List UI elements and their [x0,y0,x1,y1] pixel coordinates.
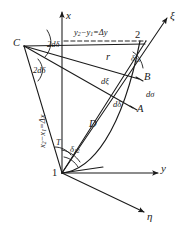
angle-label-2ddelta-lower: 2dδ [33,66,45,75]
tick-at-B [136,77,143,81]
point-label-D: D [89,119,97,130]
length-label-r: r [106,52,110,63]
delta-x-term-x2: x [37,144,47,148]
angle-arc-T [55,147,71,155]
point-label-B: B [144,72,150,83]
xi-axis-label: ξ [170,10,175,21]
point-label-2: 2 [135,30,140,41]
eta-axis [62,173,144,212]
delta-x-term-tail: =Δx [37,114,47,129]
angle-label-delta12: δ12 [70,145,80,155]
delta-y-term-tail: =Δy [93,27,108,37]
delta-x-term-minus-x1: −x [37,132,47,142]
angle-label-T: T [56,138,61,147]
angle-label-delta21: δ21 [131,54,141,64]
delta-x-equation: x2−x1=Δx [38,114,48,148]
eta-axis-label: η [147,211,152,222]
delta-y-equation: y2−y1=Δy [74,28,108,38]
geodetic-diagram: x y ξ η y2−y1=Δy x2−x1=Δx C 2 1 B A D r … [0,0,188,233]
chord-C-to-2 [24,44,145,46]
y-axis-label: y [161,163,166,174]
ray-1-lower-fan [62,167,103,173]
point-label-C: C [13,38,20,49]
differential-label-dxi: dξ [101,77,109,86]
delta-y-term-minus-y1: −y [81,27,91,37]
angle-delta12-subscript: 12 [74,148,80,154]
angle-label-2ddelta-upper: 2dδ [47,40,59,49]
x-axis-label: x [66,10,71,21]
delta-x-sub-2: 2 [41,141,47,144]
angle-delta21-subscript: 21 [135,57,141,63]
tick-at-A [130,106,137,110]
delta-x-sub-1: 1 [41,129,47,132]
differential-label-ddelta: dδ [113,100,121,109]
point-label-A: A [137,104,143,115]
differential-label-dsigma: dσ [146,90,154,99]
point-label-1: 1 [52,168,57,179]
